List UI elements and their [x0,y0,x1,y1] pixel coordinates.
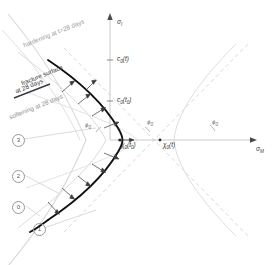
hardening-curve-secondary [2,30,80,140]
label-chi0-t0: χ0(t0) [121,141,136,150]
label-phi0-right: ϕ0 [212,118,218,127]
c0-t0-arg-close: ) [129,96,131,103]
phi0-left-subscript: 0 [88,125,91,130]
normal-arrow [62,81,75,92]
point-chi0-t [159,139,162,142]
sigma-I-subscript: I [121,22,122,27]
normal-arrow [92,164,106,173]
asymptote-upper [64,42,250,232]
normal-arrow [78,94,91,104]
leader-0 [26,206,40,216]
normal-arrow [92,107,106,116]
sigma-I-axis-label: σI [117,18,122,27]
axis-group [107,13,257,143]
angle-arc-mid [145,127,150,132]
sigma-I-axis-arrow [107,13,112,20]
normal-arrow [86,80,96,90]
chi0-t0-arg-close: ) [134,141,136,148]
figure-canvas: hardening at t>28 days fracture surface … [0,0,280,265]
callout-number-0[interactable]: 0 [12,201,25,214]
sigma-M-axis-arrow [250,137,257,142]
callout-number-2[interactable]: 2 [12,170,25,183]
phi0-right-subscript: 0 [215,122,218,127]
normal-arrow [78,176,91,186]
sigma-M-subscript: M [260,149,264,154]
label-c0-t0: c0(t0) [117,96,131,105]
asymptote-lower [64,48,250,238]
c0-t-argument: (t) [123,55,129,62]
label-phi0-left: ϕ0 [85,121,91,130]
label-phi0-mid: ϕ0 [147,118,153,127]
label-c0-t: c0(t) [117,55,129,64]
callout-number-3[interactable]: 3 [12,134,25,147]
chi0-t-argument: (t) [169,141,175,148]
normal-arrow [62,188,75,199]
sigma-M-axis-label: σM [256,145,264,154]
callout-number-1[interactable]: 1 [33,223,46,236]
angle-arc-group [96,125,215,132]
label-chi0-t: χ0(t) [163,141,175,150]
phi0-mid-subscript: 0 [150,122,153,127]
